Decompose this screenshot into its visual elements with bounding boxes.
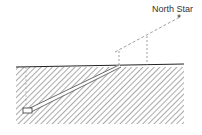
ground-surface-line — [16, 64, 184, 67]
chamber-box — [23, 108, 32, 113]
star-icon: * — [177, 14, 181, 23]
sight-line-dashed — [115, 17, 180, 52]
tunnel-diagram: * — [0, 0, 202, 135]
